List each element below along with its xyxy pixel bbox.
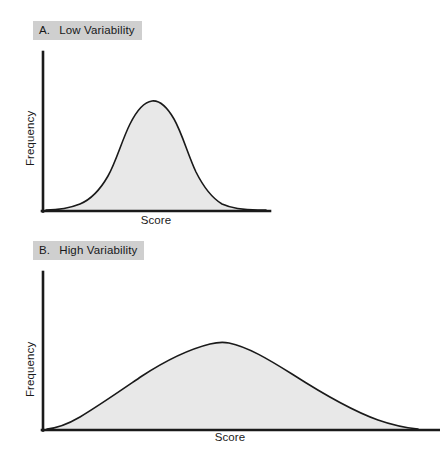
panel-a-chart-svg	[0, 0, 440, 235]
panel-b-x-axis-label: Score	[42, 431, 418, 444]
panel-a-y-axis-label: Frequency	[24, 111, 36, 166]
panel-b-plot	[0, 235, 440, 463]
panel-a-plot	[0, 0, 440, 235]
panel-high-variability: B.High Variability Frequency Score	[0, 235, 440, 463]
panel-b-y-axis-label: Frequency	[24, 342, 36, 397]
variability-figure: A.Low Variability Frequency Score B.High…	[0, 0, 440, 463]
panel-low-variability: A.Low Variability Frequency Score	[0, 0, 440, 235]
panel-a-x-axis-label: Score	[42, 214, 270, 227]
panel-a-curve-area	[46, 101, 266, 210]
panel-b-chart-svg	[0, 235, 440, 463]
panel-b-curve-area	[47, 342, 418, 429]
